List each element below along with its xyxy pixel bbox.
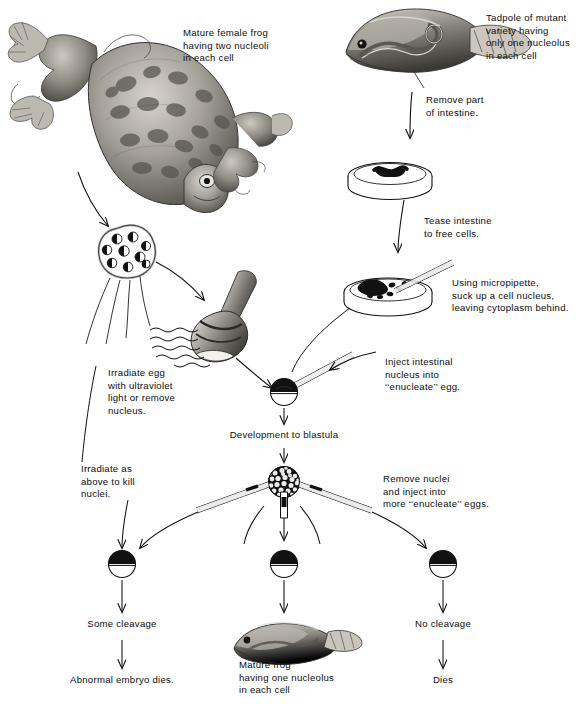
petri-dish-with-free-cells [344,260,454,316]
label-some-cleavage: Some cleavage [62,618,182,631]
arrow-blastula-to-egg-right [372,512,426,548]
label-mature-frog-result: Mature frog having one nucleolus in each… [239,659,334,697]
label-tadpole-mutant: Tadpole of mutant variety having only on… [486,12,570,62]
label-tease-intestine: Tease intestine to free cells. [424,215,492,240]
ultraviolet-lamp [150,271,256,367]
label-no-cleavage: No cleavage [388,618,498,631]
diagram-artwork [0,0,585,706]
label-micropipette: Using micropipette, suck up a cell nucle… [452,277,569,315]
enucleate-egg [271,379,298,406]
arrow-irradiate-to-egg-left [122,500,128,548]
arrow-eggs-to-uv [156,262,204,300]
arrow-remove-intestine [410,92,412,138]
arrow-tease-intestine [398,200,404,252]
egg-cluster-ovary [86,225,155,344]
label-irradiate-as-above: Irradiate as above to kill nuclei. [81,463,135,501]
label-mature-female-frog: Mature female frog having two nucleoli i… [183,27,269,65]
line-irradiate-branch [82,366,96,462]
egg-right [430,551,457,578]
label-dies: Dies [408,674,478,687]
egg-left [109,551,136,578]
arrow-uv-to-egg [236,358,272,388]
arrow-blastula-to-egg-left [140,512,198,548]
egg-center [271,551,298,578]
blastula-pipette-right [299,482,372,513]
blastula-pipette-left [196,482,269,513]
figure-canvas: Mature female frog having two nucleoli i… [0,0,585,706]
label-inject-nucleus: Inject intestinal nucleus into ‘‘enuclea… [385,356,460,394]
blastula-pipette-center [281,492,288,518]
arrow-frog-to-eggs [78,172,108,226]
label-remove-nuclei: Remove nuclei and inject into more ‘‘enu… [383,473,489,511]
label-abnormal-embryo-dies: Abnormal embryo dies. [32,674,212,687]
label-development-to-blastula: Development to blastula [204,429,364,442]
label-remove-intestine: Remove part of intestine. [426,94,484,119]
label-irradiate-egg: Irradiate egg with ultraviolet light or … [108,367,175,417]
line-center-right [300,506,320,544]
petri-dish-with-intestine [348,163,432,200]
injection-pipette [292,352,354,389]
line-center-left [244,506,264,544]
